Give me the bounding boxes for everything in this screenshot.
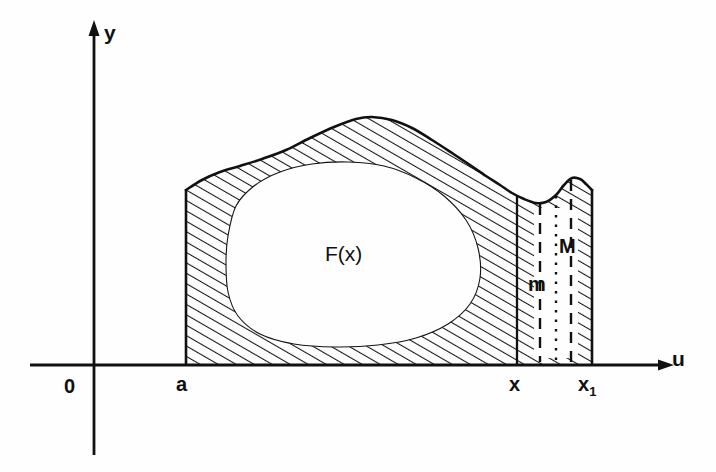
maximum-ordinate-label: M: [559, 236, 576, 256]
tick-label-x1-subscript: 1: [589, 384, 596, 399]
tick-label-a: a: [176, 374, 187, 394]
diagram-svg: [0, 0, 716, 472]
tick-label-x1-base: x: [578, 373, 589, 395]
area-function-label: F(x): [325, 243, 362, 264]
hatched-area-under-curve: [0, 0, 716, 472]
u-axis-label: u: [672, 348, 685, 369]
tick-label-x1: x1: [578, 374, 596, 398]
origin-label: 0: [64, 376, 75, 396]
figure-canvas: y u 0 a x x1 F(x) m M: [0, 0, 716, 472]
y-axis-label: y: [104, 22, 116, 43]
minimum-ordinate-label: m: [528, 274, 546, 294]
tick-label-x: x: [509, 374, 520, 394]
